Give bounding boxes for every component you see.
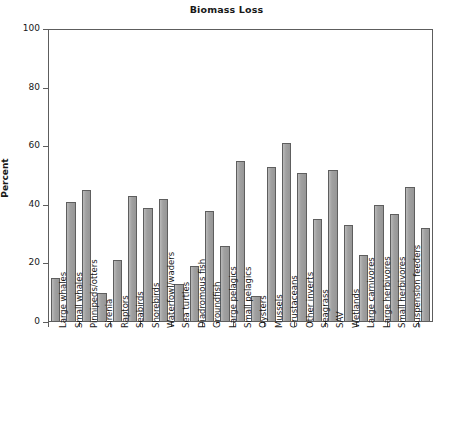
chart-title: Biomass Loss: [0, 4, 453, 15]
x-tick-label: Large pelagics: [229, 266, 238, 328]
x-tick-label: Sea turtles: [182, 282, 191, 328]
x-tick-label: Small herbivores: [398, 257, 407, 328]
x-tick-label: Groundfish: [213, 282, 222, 328]
x-tick-label: Small pelagics: [244, 267, 253, 328]
y-tick-label-80: 80: [0, 82, 40, 92]
biomass-loss-chart-figure: Biomass Loss Percent 020406080100 Large …: [0, 0, 453, 436]
y-tick-label-40: 40: [0, 199, 40, 209]
x-tick-label: Small whales: [75, 272, 84, 328]
x-tick-label: Mussels: [275, 294, 284, 328]
x-tick-label: Large herbivores: [383, 256, 392, 328]
x-tick-label: SAV: [336, 311, 345, 328]
y-tick-label-0: 0: [0, 316, 40, 326]
x-tick-label: Oysters: [259, 295, 268, 328]
x-tick-label: Pinnipeds/otters: [90, 259, 99, 328]
x-tick-label: Large carnivores: [367, 257, 376, 328]
x-tick-label: Seabirds: [136, 291, 145, 328]
x-tick-label: Crustaceans: [290, 275, 299, 328]
x-tick-label: Shorebirds: [152, 283, 161, 328]
x-tick-label: Other inverts: [306, 272, 315, 328]
x-tick-label: Seagrass: [321, 289, 330, 328]
y-tick-label-20: 20: [0, 257, 40, 267]
x-tick-label: Wetlands: [352, 289, 361, 328]
y-tick-label-60: 60: [0, 140, 40, 150]
x-tick-label: Raptors: [121, 295, 130, 328]
x-tick-label: Large whales: [59, 272, 68, 328]
x-tick-label: Waterfowl/waders: [167, 252, 176, 328]
x-tick-label: Suspension feeders: [413, 245, 422, 328]
x-tick-label: Diadromous fish: [198, 259, 207, 328]
x-axis-tick-labels: Large whalesSmall whalesPinnipeds/otters…: [48, 322, 433, 436]
y-tick-label-100: 100: [0, 23, 40, 33]
x-tick-label: Sirenia: [105, 299, 114, 328]
